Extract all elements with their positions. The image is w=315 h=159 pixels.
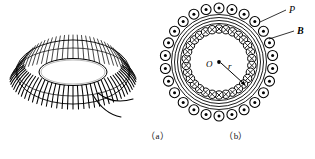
centre-point-dot bbox=[217, 60, 221, 64]
leader-line-b bbox=[269, 31, 294, 39]
current-out-dot bbox=[253, 20, 256, 23]
current-out-dot bbox=[243, 13, 246, 16]
current-out-dot bbox=[230, 8, 233, 11]
current-out-dot bbox=[243, 108, 246, 111]
current-out-dot bbox=[268, 80, 271, 83]
toroid-figure: P B O r （a） （b） bbox=[0, 0, 315, 159]
current-out-dot bbox=[167, 80, 170, 83]
toroid-body bbox=[10, 35, 136, 109]
leader-line-p bbox=[260, 10, 286, 22]
current-out-dot bbox=[173, 91, 176, 94]
current-out-dot bbox=[205, 113, 208, 116]
current-out-dot bbox=[271, 54, 274, 57]
current-out-dot bbox=[253, 101, 256, 104]
label-o: O bbox=[206, 60, 213, 69]
current-out-dot bbox=[218, 7, 221, 10]
current-out-dot bbox=[182, 20, 185, 23]
current-out-dot bbox=[218, 115, 221, 118]
current-out-dot bbox=[271, 67, 274, 70]
current-out-dot bbox=[164, 54, 167, 57]
current-out-dot bbox=[205, 8, 208, 11]
label-b: B bbox=[297, 26, 304, 36]
current-out-dot bbox=[192, 108, 195, 111]
current-out-dot bbox=[262, 91, 265, 94]
current-out-dot bbox=[173, 30, 176, 33]
current-out-dot bbox=[182, 101, 185, 104]
current-out-dot bbox=[268, 41, 271, 44]
current-out-dot bbox=[262, 30, 265, 33]
current-out-dot bbox=[167, 41, 170, 44]
current-out-dot bbox=[230, 113, 233, 116]
current-out-dot bbox=[164, 67, 167, 70]
label-p: P bbox=[289, 5, 295, 15]
caption-b: （b） bbox=[157, 129, 315, 142]
current-out-dot bbox=[192, 13, 195, 16]
label-r: r bbox=[228, 62, 232, 71]
